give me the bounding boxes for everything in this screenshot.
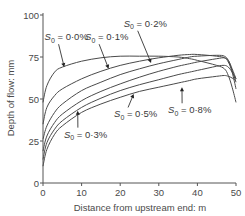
slope-label-0: S0 = 0·0% [45, 31, 89, 44]
arrowhead-icon [180, 87, 184, 91]
y-axis-title: Depth of flow: mm [5, 60, 16, 137]
slope-label-4: S0 = 0·5% [114, 108, 158, 121]
annotation-arrow [99, 44, 107, 66]
depth-profile-chart: 025507510001020304050 S0 = 0·0%S0 = 0·1%… [0, 0, 245, 216]
slope-label-3: S0 = 0·3% [64, 129, 108, 142]
x-axis-title: Distance from upstream end: m [74, 202, 207, 213]
slope-label-1: S0 = 0·1% [85, 31, 129, 44]
curve-series-0 [43, 56, 236, 102]
arrowhead-icon [76, 111, 80, 115]
y-tick-label: 50 [28, 94, 39, 105]
y-tick-label: 25 [28, 136, 39, 147]
x-tick-label: 0 [40, 187, 45, 198]
annotation-arrow [59, 44, 64, 64]
slope-label-5: S0 = 0·8% [168, 104, 212, 117]
y-tick-label: 100 [23, 10, 39, 21]
y-tick-label: 0 [34, 178, 39, 189]
slope-label-2: S0 = 0·2% [124, 18, 168, 31]
x-tick-label: 30 [154, 187, 165, 198]
x-tick-label: 40 [192, 187, 203, 198]
x-tick-label: 20 [115, 187, 126, 198]
annotations: S0 = 0·0%S0 = 0·1%S0 = 0·2%S0 = 0·3%S0 =… [45, 18, 212, 141]
annotation-arrow [128, 97, 132, 108]
x-tick-label: 10 [76, 187, 87, 198]
curve-series-5 [43, 76, 236, 167]
y-tick-label: 75 [28, 52, 39, 63]
x-tick-label: 50 [231, 187, 242, 198]
